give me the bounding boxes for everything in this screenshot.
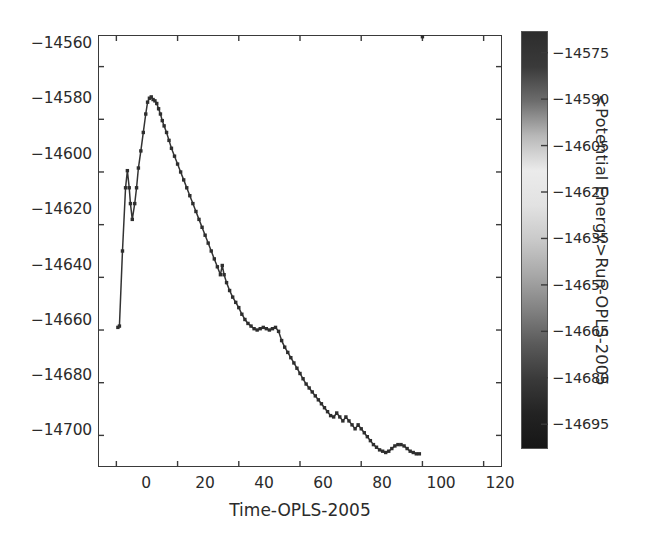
data-point [335, 411, 338, 414]
data-point [390, 447, 393, 450]
data-point [203, 234, 206, 237]
data-point [283, 345, 286, 348]
x-tick-label: 60 [313, 474, 332, 492]
data-point [129, 202, 132, 205]
data-point [271, 327, 274, 330]
colorbar [521, 31, 548, 449]
data-point [304, 382, 307, 385]
data-point [249, 324, 252, 327]
x-tick-label: 80 [372, 474, 391, 492]
data-point [161, 119, 164, 122]
data-point [384, 451, 387, 454]
x-tick-label: 100 [427, 474, 456, 492]
y-tick-label: −14560 [31, 34, 92, 52]
y-tick-label: −14580 [31, 89, 92, 107]
y-tick-label: −14640 [31, 256, 92, 274]
data-point [219, 273, 222, 276]
data-point [240, 313, 243, 316]
data-point [135, 186, 138, 189]
data-point [170, 147, 173, 150]
y-tick-label: −14680 [31, 366, 92, 384]
data-point [369, 439, 372, 442]
data-point [412, 451, 415, 454]
data-point [360, 427, 363, 430]
data-point [381, 450, 384, 453]
data-point [408, 450, 411, 453]
data-point [225, 281, 228, 284]
data-point [280, 339, 283, 342]
data-point [323, 406, 326, 409]
data-plot [98, 35, 502, 467]
data-point [255, 328, 258, 331]
data-point [415, 452, 418, 455]
data-point [393, 444, 396, 447]
data-point [165, 131, 168, 134]
data-point [402, 444, 405, 447]
data-point [268, 328, 271, 331]
data-point [234, 301, 237, 304]
data-point [341, 419, 344, 422]
y-tick-label: −14600 [31, 145, 92, 163]
data-point [216, 265, 219, 268]
y-tick-label: −14660 [31, 311, 92, 329]
data-point [173, 154, 176, 157]
data-point [418, 452, 421, 455]
data-point [222, 273, 225, 276]
data-point [191, 202, 194, 205]
data-point [128, 186, 131, 189]
x-axis-title: Time-OPLS-2005 [98, 500, 502, 520]
axis-ticks [98, 35, 502, 467]
data-point [298, 372, 301, 375]
data-point [421, 35, 424, 38]
x-axis-tick-labels: 0 20 40 60 80 100 120 [0, 474, 663, 496]
data-point [155, 102, 158, 105]
data-point [237, 306, 240, 309]
data-point [338, 415, 341, 418]
x-tick-label: 0 [141, 474, 151, 492]
data-point [139, 149, 142, 152]
data-point [126, 169, 129, 172]
data-point [124, 186, 127, 189]
data-point [277, 330, 280, 333]
data-point [301, 377, 304, 380]
data-point [252, 327, 255, 330]
data-point [210, 249, 213, 252]
data-point [353, 427, 356, 430]
data-point [405, 447, 408, 450]
data-point [399, 443, 402, 446]
data-point [329, 414, 332, 417]
data-point [286, 351, 289, 354]
data-point [246, 322, 249, 325]
data-point [185, 186, 188, 189]
data-point [176, 162, 179, 165]
data-point [162, 124, 165, 127]
data-point [372, 443, 375, 446]
data-point [320, 402, 323, 405]
colorbar-tick-marks [521, 31, 548, 449]
data-point [144, 112, 147, 115]
data-point [118, 324, 121, 327]
plot-axes [98, 35, 502, 467]
data-point [326, 410, 329, 413]
data-point [142, 131, 145, 134]
x-tick-label: 40 [254, 474, 273, 492]
data-point [133, 202, 136, 205]
y-tick-label: −14620 [31, 200, 92, 218]
data-point [317, 398, 320, 401]
data-point [344, 415, 347, 418]
data-point [259, 327, 262, 330]
x-tick-label: 120 [486, 474, 515, 492]
data-point [213, 257, 216, 260]
data-point [311, 390, 314, 393]
data-point [366, 435, 369, 438]
data-point [347, 419, 350, 422]
data-point [274, 326, 277, 329]
data-point [292, 361, 295, 364]
figure-canvas: −14560 −14580 −14600 −14620 −14640 −1466… [0, 0, 663, 539]
data-point [200, 226, 203, 229]
data-point [197, 218, 200, 221]
data-point [231, 295, 234, 298]
data-line-series [118, 97, 419, 454]
data-point [295, 367, 298, 370]
data-point [157, 107, 160, 110]
